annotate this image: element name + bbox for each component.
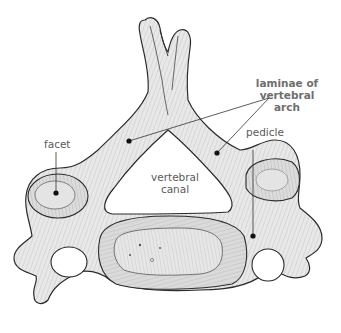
laminae-label-line3: arch (244, 101, 330, 113)
laminae-label-line1: laminae of (244, 77, 330, 89)
facet-label: facet (44, 138, 70, 150)
vertebral-canal-label-line2: canal (145, 183, 205, 195)
left-transverse-foramen (51, 247, 87, 277)
vertebral-canal-label-line1: vertebral (145, 171, 205, 183)
right-facet-shape (246, 159, 300, 201)
vertebral-canal-label: vertebral canal (145, 171, 205, 195)
vertebra-illustration (0, 0, 341, 333)
vertebral-body-shape (99, 216, 247, 289)
left-facet-shape (28, 174, 88, 218)
pedicle-label: pedicle (246, 126, 284, 138)
right-transverse-foramen (252, 249, 284, 281)
laminae-label: laminae of vertebral arch (244, 77, 330, 113)
laminae-label-line2: vertebral (244, 89, 330, 101)
